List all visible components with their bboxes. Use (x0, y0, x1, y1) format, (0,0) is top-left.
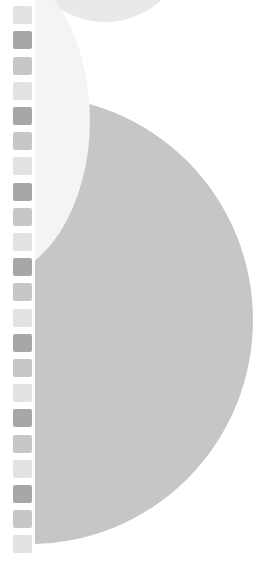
square-light (13, 6, 32, 24)
square-light (13, 535, 32, 553)
square-dark (13, 409, 32, 427)
square-dark (13, 258, 32, 276)
square-dark (13, 31, 32, 49)
square-dark (13, 334, 32, 352)
square-light (13, 82, 32, 100)
square-medium (13, 510, 32, 528)
square-dark (13, 485, 32, 503)
square-light (13, 309, 32, 327)
square-medium (13, 132, 32, 150)
square-light (13, 157, 32, 175)
decorative-canvas (0, 0, 273, 568)
square-light (13, 460, 32, 478)
square-light (13, 233, 32, 251)
square-column (0, 0, 35, 568)
square-medium (13, 283, 32, 301)
square-dark (13, 107, 32, 125)
square-medium (13, 57, 32, 75)
square-medium (13, 208, 32, 226)
square-medium (13, 435, 32, 453)
square-medium (13, 359, 32, 377)
square-dark (13, 183, 32, 201)
square-light (13, 384, 32, 402)
shape-layer (35, 0, 273, 568)
